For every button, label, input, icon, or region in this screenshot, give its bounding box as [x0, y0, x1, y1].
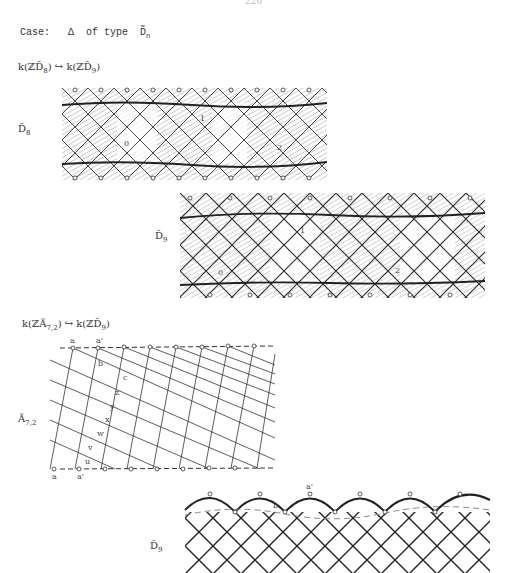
svg-text:b: b	[98, 359, 103, 368]
svg-text:a: a	[70, 336, 75, 345]
diagram-label-a72: Ã7,2	[18, 413, 36, 427]
svg-text:a': a'	[306, 482, 313, 491]
svg-text:z: z	[115, 388, 119, 397]
case-heading: Case: Δ of type D̃n	[20, 27, 150, 40]
embedding-heading-1: k(ℤD̃8) ↪ k(ℤD̃9)	[18, 61, 100, 75]
diagram-zd8: 0 1 2	[62, 88, 327, 180]
hook-arrow-icon: ↪	[55, 61, 63, 72]
svg-text:a': a'	[96, 336, 103, 345]
region-label-1: 1	[300, 226, 305, 235]
diagram-zd9: 0 1 2	[180, 193, 485, 298]
svg-text:u: u	[85, 457, 90, 466]
case-prefix: Case:	[20, 27, 50, 38]
diagram-label-d8: D̃8	[18, 123, 31, 137]
region-label-1: 1	[200, 114, 205, 123]
diagram-label-d9: D̃9	[155, 230, 168, 244]
diagram-za72: a a' a a' b c z y x w v u	[60, 340, 280, 480]
svg-text:c: c	[123, 373, 128, 382]
region-label-0: 0	[218, 268, 223, 277]
page-number: 220	[245, 0, 262, 6]
region-label-2: 2	[277, 143, 282, 152]
svg-text:b: b	[273, 501, 278, 510]
hook-arrow-icon: ↪	[65, 318, 73, 329]
svg-text:a': a'	[77, 472, 84, 481]
diagram-zd9-bottom: a' b	[185, 490, 490, 573]
type-subscript: n	[146, 32, 150, 40]
diagram-label-d9-bottom: D̃9	[150, 540, 163, 554]
svg-text:w: w	[97, 429, 104, 438]
case-middle: of type	[86, 27, 128, 38]
svg-text:y: y	[109, 402, 115, 411]
region-label-0: 0	[124, 139, 129, 148]
embedding-heading-2: k(ℤÃ7,2) ↪ k(ℤD̃9)	[22, 318, 110, 332]
region-label-2: 2	[395, 266, 400, 275]
svg-text:x: x	[105, 415, 110, 424]
svg-text:v: v	[87, 443, 93, 452]
svg-text:a: a	[52, 472, 57, 481]
delta-symbol: Δ	[68, 27, 74, 38]
